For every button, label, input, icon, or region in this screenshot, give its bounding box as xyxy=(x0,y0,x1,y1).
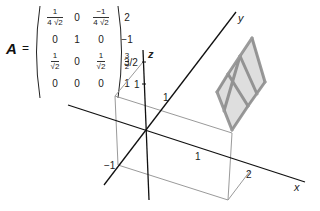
y-axis-label: y xyxy=(237,12,245,24)
3d-plot: z y x 1 2 −1 1 1 3/2 xyxy=(0,0,320,211)
y-tick-1: 1 xyxy=(163,92,169,103)
z-axis-label: z xyxy=(147,48,154,60)
z-axis xyxy=(143,50,149,200)
z-tick-3-2: 3/2 xyxy=(124,57,138,68)
x-axis-label: x xyxy=(293,181,300,193)
y-tick-minus1: −1 xyxy=(104,160,116,171)
transformed-grid-shape xyxy=(217,38,265,130)
z-tick-1: 1 xyxy=(134,79,140,90)
x-tick-2: 2 xyxy=(246,169,252,180)
axes xyxy=(68,12,305,200)
x-tick-1: 1 xyxy=(195,151,201,162)
